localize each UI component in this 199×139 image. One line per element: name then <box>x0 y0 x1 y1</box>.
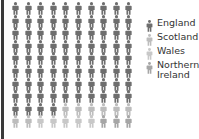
person-icon <box>48 2 59 15</box>
person-icon <box>60 65 71 78</box>
person-icon <box>86 15 97 28</box>
person-icon <box>35 40 46 53</box>
person-icon <box>60 15 71 28</box>
person-icon <box>111 15 122 28</box>
person-icon <box>98 15 109 28</box>
person-icon <box>86 103 97 116</box>
person-icon <box>111 27 122 40</box>
person-icon <box>35 65 46 78</box>
person-icon <box>145 59 154 71</box>
person-icon <box>111 103 122 116</box>
person-icon <box>73 90 84 103</box>
person-icon <box>123 40 134 53</box>
person-icon <box>98 90 109 103</box>
person-icon <box>123 2 134 15</box>
person-icon <box>60 103 71 116</box>
person-icon <box>111 90 122 103</box>
person-icon <box>10 65 21 78</box>
person-icon <box>111 65 122 78</box>
person-icon <box>23 90 34 103</box>
legend: England Scotland Wales Northern Ireland <box>145 17 199 84</box>
person-icon <box>10 115 21 128</box>
person-icon <box>60 52 71 65</box>
person-icon <box>123 15 134 28</box>
person-icon <box>48 40 59 53</box>
person-icon <box>73 115 84 128</box>
person-icon <box>60 115 71 128</box>
person-icon <box>98 27 109 40</box>
person-icon <box>60 78 71 91</box>
legend-label: Scotland <box>157 31 198 42</box>
person-icon <box>48 78 59 91</box>
person-icon <box>48 65 59 78</box>
legend-label: Northern Ireland <box>157 59 199 80</box>
person-icon <box>35 103 46 116</box>
person-icon <box>23 27 34 40</box>
person-icon <box>35 2 46 15</box>
person-icon <box>123 115 134 128</box>
person-icon <box>123 90 134 103</box>
person-icon <box>98 115 109 128</box>
person-icon <box>111 2 122 15</box>
person-icon <box>10 103 21 116</box>
person-icon <box>35 115 46 128</box>
person-icon <box>60 27 71 40</box>
person-icon <box>10 15 21 28</box>
person-icon <box>48 15 59 28</box>
person-icon <box>86 78 97 91</box>
person-icon <box>48 115 59 128</box>
person-icon <box>10 2 21 15</box>
person-icon <box>60 2 71 15</box>
person-icon <box>48 52 59 65</box>
person-icon <box>73 15 84 28</box>
person-icon <box>123 65 134 78</box>
person-icon <box>123 52 134 65</box>
person-icon <box>23 78 34 91</box>
legend-item-northern-ireland: Northern Ireland <box>145 59 199 83</box>
person-icon <box>123 103 134 116</box>
person-icon <box>86 90 97 103</box>
person-icon <box>35 52 46 65</box>
person-icon <box>10 78 21 91</box>
person-icon <box>98 52 109 65</box>
left-border <box>1 0 4 139</box>
legend-item-wales: Wales <box>145 45 199 58</box>
legend-item-england: England <box>145 17 199 30</box>
person-icon <box>23 40 34 53</box>
person-icon <box>23 52 34 65</box>
person-icon <box>48 90 59 103</box>
person-icon <box>86 52 97 65</box>
person-icon <box>86 115 97 128</box>
person-icon <box>73 27 84 40</box>
person-icon <box>98 40 109 53</box>
person-icon <box>35 27 46 40</box>
person-icon <box>145 45 154 57</box>
person-icon <box>111 52 122 65</box>
person-icon <box>98 2 109 15</box>
person-icon <box>23 15 34 28</box>
person-icon <box>23 103 34 116</box>
person-icon <box>111 115 122 128</box>
person-icon <box>35 78 46 91</box>
legend-label: Wales <box>157 45 185 56</box>
person-icon <box>86 65 97 78</box>
person-icon <box>98 78 109 91</box>
person-icon <box>111 40 122 53</box>
person-icon <box>10 90 21 103</box>
person-icon <box>48 27 59 40</box>
person-icon <box>123 78 134 91</box>
person-icon <box>60 90 71 103</box>
person-icon <box>86 2 97 15</box>
person-icon <box>145 17 154 29</box>
person-icon <box>10 27 21 40</box>
person-icon <box>10 52 21 65</box>
person-icon <box>73 40 84 53</box>
person-icon <box>98 65 109 78</box>
person-icon <box>73 2 84 15</box>
person-icon <box>123 27 134 40</box>
person-icon <box>73 65 84 78</box>
person-icon <box>86 27 97 40</box>
person-icon <box>73 52 84 65</box>
person-icon <box>73 103 84 116</box>
person-icon <box>23 2 34 15</box>
